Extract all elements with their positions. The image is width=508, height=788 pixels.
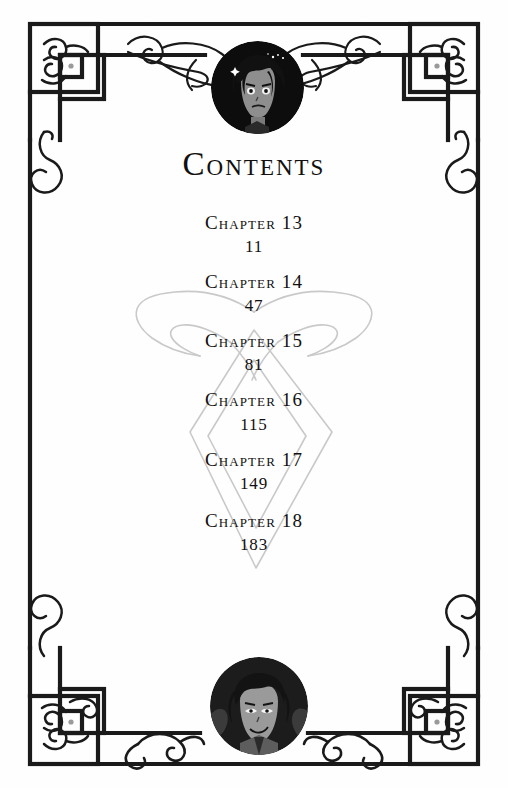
toc-page: Contents Chapter 13 11 Chapter 14 47 Cha… — [0, 0, 508, 788]
portrait-top-character — [211, 41, 304, 134]
filigree-right-rail — [446, 131, 477, 192]
filigree-left-rail-lower — [31, 595, 62, 656]
filigree-left-rail — [31, 131, 62, 192]
filigree-right-rail-lower — [446, 595, 477, 656]
portrait-bottom-character — [210, 657, 308, 755]
